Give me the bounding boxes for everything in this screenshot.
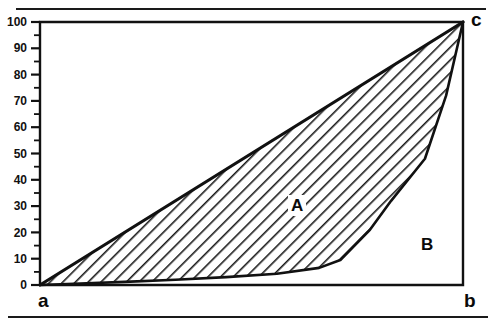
y-tick-label-30: 30: [2, 200, 27, 212]
y-tick-label-50: 50: [2, 148, 27, 160]
point-label-a: a: [38, 291, 49, 310]
y-tick-label-0: 0: [2, 279, 27, 291]
region-label-a: A: [288, 195, 306, 216]
y-tick-label-100: 100: [2, 16, 27, 28]
lorenz-curve-figure: 100 90 80 70 60 50 40 30 20 10 0 a b c A…: [0, 0, 496, 326]
y-tick-label-60: 60: [2, 121, 27, 133]
y-tick-label-20: 20: [2, 227, 27, 239]
point-label-c: c: [471, 10, 482, 29]
plot-canvas: [0, 0, 496, 326]
y-tick-label-90: 90: [2, 42, 27, 54]
point-label-b: b: [464, 291, 476, 310]
y-tick-label-10: 10: [2, 253, 27, 265]
region-label-b: B: [418, 234, 436, 255]
y-tick-label-40: 40: [2, 174, 27, 186]
y-tick-label-70: 70: [2, 95, 27, 107]
y-tick-label-80: 80: [2, 69, 27, 81]
